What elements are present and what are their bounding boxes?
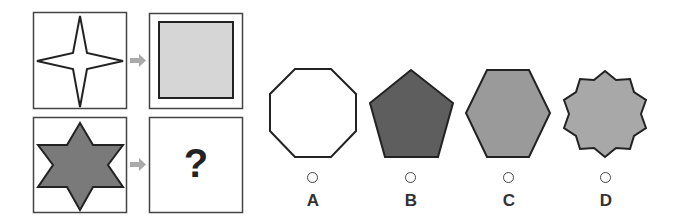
option-c-radio[interactable] <box>503 172 514 183</box>
question-mark: ? <box>149 141 243 186</box>
option-a-label[interactable]: A <box>298 191 328 211</box>
option-d-ten-pointed-star-shape[interactable] <box>564 71 646 157</box>
option-b-label[interactable]: B <box>396 191 426 211</box>
option-c-hexagon-shape[interactable] <box>466 70 550 157</box>
option-c-label[interactable]: C <box>494 191 524 211</box>
option-b-radio[interactable] <box>405 172 416 183</box>
option-b-pentagon-shape[interactable] <box>370 70 453 157</box>
option-a-octagon-shape[interactable] <box>270 69 356 157</box>
option-d-label[interactable]: D <box>591 191 621 211</box>
puzzle-canvas <box>0 0 685 223</box>
arrow-icon <box>130 54 146 67</box>
option-d-radio[interactable] <box>600 172 611 183</box>
arrow-icon <box>130 158 146 171</box>
square-shape <box>159 22 233 98</box>
option-a-radio[interactable] <box>307 172 318 183</box>
